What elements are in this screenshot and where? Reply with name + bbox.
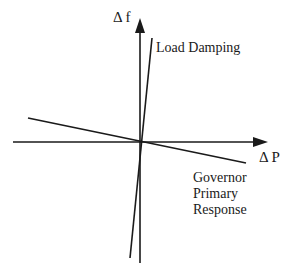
governor-response-line (28, 118, 246, 163)
diagram-canvas (0, 0, 293, 277)
governor-label-line-3: Response (193, 202, 247, 218)
x-axis-label: Δ P (259, 150, 280, 165)
governor-response-label: Governor Primary Response (193, 170, 247, 218)
governor-label-line-1: Governor (193, 170, 247, 186)
y-axis-arrow-icon (135, 18, 145, 33)
x-axis-arrow-icon (253, 137, 268, 147)
y-axis-label: Δ f (113, 10, 131, 25)
load-damping-label: Load Damping (156, 40, 240, 55)
load-damping-line (130, 38, 152, 258)
governor-label-line-2: Primary (193, 186, 247, 202)
